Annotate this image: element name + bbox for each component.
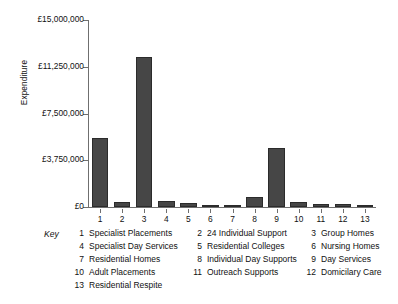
bar-chart-figure: Expenditure £15,000,000£11,250,000£7,500… — [0, 0, 398, 304]
x-axis-tick-label: 12 — [338, 214, 347, 224]
key-item-number: 2 — [188, 228, 202, 238]
x-axis-tick-mark — [321, 209, 322, 213]
key-row: 13Residential Respite — [70, 280, 392, 293]
x-axis-tick-label: 8 — [252, 214, 257, 224]
key-row: 10Adult Placements11Outreach Supports12D… — [70, 267, 392, 280]
x-axis-tick-label: 7 — [230, 214, 235, 224]
key-item: 9Day Services — [302, 254, 392, 264]
x-axis-tick-label: 11 — [316, 214, 325, 224]
key-item-label: Domicilary Care — [321, 267, 381, 277]
key-item-label: 24 Individual Support — [207, 228, 287, 238]
x-axis-tick-label: 13 — [360, 214, 369, 224]
x-axis-tick-mark — [255, 209, 256, 213]
y-axis-tick-label: £15,000,000 — [37, 14, 84, 24]
key-item: 1Specialist Placements — [70, 228, 188, 238]
x-axis-tick-mark — [233, 209, 234, 213]
bar — [313, 204, 330, 207]
y-axis-tick-label: £3,750,000 — [42, 154, 84, 164]
key-title: Key — [44, 229, 59, 239]
key-item-number: 4 — [70, 241, 84, 251]
y-axis-tick-label: £0 — [75, 201, 84, 211]
x-axis-tick-labels: 12345678910111213 — [88, 208, 376, 226]
key-item-number: 13 — [70, 280, 84, 290]
x-axis-tick-label: 2 — [120, 214, 125, 224]
x-axis-tick-label: 1 — [98, 214, 103, 224]
key-item-label: Adult Placements — [89, 267, 155, 277]
x-axis-tick-mark — [144, 209, 145, 213]
bar — [202, 205, 219, 207]
key-item-number: 9 — [302, 254, 316, 264]
key-item-number: 1 — [70, 228, 84, 238]
key-item-label: Day Services — [321, 254, 371, 264]
y-axis-title: Expenditure — [20, 28, 29, 138]
x-axis-tick-mark — [122, 209, 123, 213]
key-item-label: Group Homes — [321, 228, 374, 238]
key-row: 4Specialist Day Services5Residential Col… — [70, 241, 392, 254]
bar — [158, 201, 175, 207]
x-axis-tick-mark — [365, 209, 366, 213]
bar — [224, 205, 241, 207]
x-axis-tick-mark — [210, 209, 211, 213]
bar — [180, 203, 197, 207]
bar — [114, 202, 131, 207]
x-axis-tick-label: 9 — [274, 214, 279, 224]
x-axis-tick-mark — [100, 209, 101, 213]
x-axis-tick-label: 5 — [186, 214, 191, 224]
key-item-label: Nursing Homes — [321, 241, 380, 251]
key-item-number: 11 — [188, 267, 202, 277]
key-row: 1Specialist Placements224 Individual Sup… — [70, 228, 392, 241]
key-item-label: Specialist Day Services — [89, 241, 178, 251]
key-item: 224 Individual Support — [188, 228, 302, 238]
x-axis-tick-mark — [188, 209, 189, 213]
x-axis-tick-label: 10 — [294, 214, 303, 224]
x-axis-tick-label: 4 — [164, 214, 169, 224]
key-item: 10Adult Placements — [70, 267, 188, 277]
key-item-number: 3 — [302, 228, 316, 238]
bar — [268, 148, 285, 207]
key-item: 11Outreach Supports — [188, 267, 302, 277]
key-item-number: 5 — [188, 241, 202, 251]
x-axis-tick-label: 3 — [142, 214, 147, 224]
key-items-grid: 1Specialist Placements224 Individual Sup… — [70, 228, 392, 293]
bar-series — [89, 20, 376, 207]
y-axis-tick-label: £11,250,000 — [38, 61, 84, 71]
key-item: 8Individual Day Supports — [188, 254, 302, 264]
key-item-number: 6 — [302, 241, 316, 251]
key-item: 7Residential Homes — [70, 254, 188, 264]
bar — [357, 205, 374, 207]
key-item-label: Residential Homes — [89, 254, 160, 264]
key-item-label: Specialist Placements — [89, 228, 172, 238]
plot-area: £15,000,000£11,250,000£7,500,000£3,750,0… — [88, 20, 376, 208]
bar — [290, 202, 307, 207]
key-item-number: 12 — [302, 267, 316, 277]
key-item-number: 10 — [70, 267, 84, 277]
key-item: 4Specialist Day Services — [70, 241, 188, 251]
key-item-label: Outreach Supports — [207, 267, 278, 277]
bar — [246, 197, 263, 207]
x-axis-tick-mark — [277, 209, 278, 213]
bar — [136, 57, 153, 207]
key-item-number: 8 — [188, 254, 202, 264]
key-item-label: Residential Colleges — [207, 241, 285, 251]
bar — [92, 138, 109, 207]
key-item: 12Domicilary Care — [302, 267, 392, 277]
key-item: 5Residential Colleges — [188, 241, 302, 251]
key-row: 7Residential Homes8Individual Day Suppor… — [70, 254, 392, 267]
key-item-number: 7 — [70, 254, 84, 264]
x-axis-tick-mark — [343, 209, 344, 213]
x-axis-tick-label: 6 — [208, 214, 213, 224]
key-item-label: Individual Day Supports — [207, 254, 297, 264]
y-axis-tick-label: £7,500,000 — [42, 108, 84, 118]
bar — [335, 204, 352, 207]
key-item: 6Nursing Homes — [302, 241, 392, 251]
x-axis-tick-mark — [299, 209, 300, 213]
key-item-label: Residential Respite — [89, 280, 162, 290]
key-item: 3Group Homes — [302, 228, 392, 238]
key-item: 13Residential Respite — [70, 280, 188, 290]
x-axis-tick-mark — [166, 209, 167, 213]
